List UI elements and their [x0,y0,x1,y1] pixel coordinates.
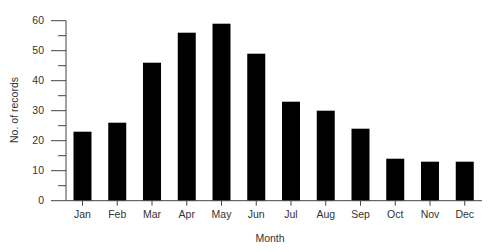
bar-jul [282,102,300,201]
bar-chart: 0102030405060 JanFebMarAprMayJunJulAugSe… [0,0,488,252]
x-tick-label: Jul [284,208,297,220]
x-tick-label: Jan [74,208,91,220]
y-tick-label: 60 [32,14,44,26]
bar-dec [456,162,474,201]
bar-feb [108,123,126,201]
y-tick-label: 0 [38,194,44,206]
y-axis-title: No. of records [8,77,20,143]
x-tick-label: Jun [248,208,265,220]
y-tick-label: 30 [32,104,44,116]
bar-aug [317,111,335,201]
bar-jan [74,132,92,201]
y-tick-label: 20 [32,134,44,146]
y-tick-label: 10 [32,164,44,176]
x-axis-title: Month [255,232,284,244]
bar-nov [421,162,439,201]
x-tick-label: May [212,208,233,220]
x-tick-label: Feb [108,208,126,220]
y-axis: 0102030405060 [32,14,66,206]
x-tick-label: Sep [351,208,370,220]
bars [74,24,474,201]
y-tick-label: 50 [32,44,44,56]
x-tick-label: Apr [179,208,196,220]
x-tick-label: Oct [387,208,403,220]
x-tick-label: Dec [455,208,474,220]
bar-may [213,24,231,201]
x-axis: JanFebMarAprMayJunJulAugSepOctNovDec [66,201,482,220]
bar-jun [247,54,265,201]
x-tick-label: Aug [316,208,335,220]
bar-oct [386,159,404,201]
bar-apr [178,33,196,201]
bar-sep [352,129,370,201]
bar-mar [143,63,161,201]
x-tick-label: Nov [421,208,440,220]
y-tick-label: 40 [32,74,44,86]
x-tick-label: Mar [143,208,162,220]
